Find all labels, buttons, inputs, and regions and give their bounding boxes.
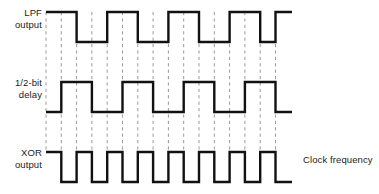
timing-diagram-figure: LPF output 1/2-bit delay XOR output Cloc… (0, 0, 379, 194)
lpf-output-label-line2: output (0, 19, 42, 31)
waveform-trace-0 (46, 12, 292, 42)
waveform-trace-1 (46, 82, 292, 112)
xor-output-label: XOR output (0, 147, 42, 170)
xor-output-label-line2: output (0, 159, 42, 171)
lpf-output-label-line1: LPF (0, 7, 42, 19)
lpf-output-label: LPF output (0, 7, 42, 30)
xor-output-label-line1: XOR (0, 147, 42, 159)
waveform-trace-2 (46, 152, 292, 182)
clock-frequency-annotation: Clock frequency (303, 154, 373, 166)
half-bit-delay-label-line1: 1/2-bit (0, 77, 42, 89)
waveform-traces-group (46, 12, 292, 182)
half-bit-delay-label: 1/2-bit delay (0, 77, 42, 100)
half-bit-delay-label-line2: delay (0, 89, 42, 101)
